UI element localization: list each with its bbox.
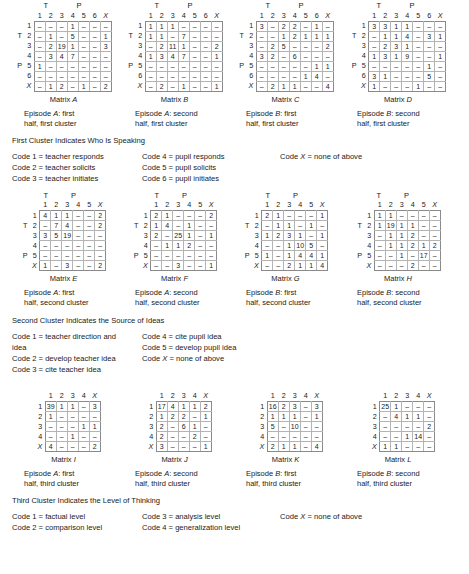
matrix-caption-line2: half, first cluster [24,119,119,129]
row-group-label [243,241,252,251]
matrix-cell: – [78,51,89,61]
row-header-x: X [141,261,151,271]
row-header-4: 4 [257,432,267,442]
matrix-grid-h: 12345X111––––T211911––3–112––4–11212P5––… [355,201,441,272]
matrix-cell: – [67,412,78,422]
matrix-grid-a: 123456X1–––1–––T2–1–5––13–2191––34–347––… [15,11,112,92]
matrix-cell: – [73,241,84,251]
row-header-4: 4 [364,241,374,251]
matrix-cell: 1 [206,261,217,271]
matrix-title: Matrix A [50,95,78,104]
matrix-cell: 1 [311,61,322,71]
matrix-cell: 1 [89,422,100,432]
matrix-cell: 19 [62,231,73,241]
column-header-2: 2 [380,11,391,21]
column-header-4: 4 [73,201,84,211]
legend-code-item: Code 4 = pupil responds [142,151,262,162]
matrix-cell: 5 [267,422,278,432]
matrix-cell: – [289,71,300,81]
matrix-cell: – [78,21,89,31]
matrix-cell: 2 [95,261,106,271]
matrix-cell: 1 [278,412,289,422]
column-header-2: 2 [391,392,402,402]
matrix-cell: 1 [34,61,45,71]
matrix-column-header-row: 1234X [361,392,435,402]
column-header-6: 6 [200,11,211,21]
row-group-label [355,231,364,241]
matrix-title: Matrix L [385,455,412,464]
corner-cell [257,392,267,402]
matrix-cell: – [84,221,95,231]
matrix-cell: 25 [380,402,391,412]
matrix-cell: – [200,31,211,41]
column-header-1: 1 [374,201,385,211]
matrix-cell: – [100,71,111,81]
matrix-caption-line2: half, second cluster [24,298,119,308]
matrix-cell: – [45,61,56,71]
matrix-row: 13911–3 [26,402,100,412]
row-header-6: 6 [24,71,34,81]
matrix-cell: – [311,51,322,61]
row-header-3: 3 [364,231,374,241]
matrix-cell: – [278,422,289,432]
row-header-1: 1 [141,211,151,221]
matrix-cell: 1 [273,211,284,221]
matrix-cell: 2 [211,41,222,51]
legend-column: Code 1 = teacher direction and ideaCode … [12,331,124,375]
matrix-cell: – [184,251,195,261]
row-header-2: 2 [359,31,369,41]
matrix-row: 41347––1 [126,51,222,61]
matrix-cell: – [418,231,429,241]
matrix-block-c: TP123456X13–22–1–T2––121113–25–––2432–6–… [230,0,341,129]
row-header-4: 4 [30,241,40,251]
row-group-label [361,432,370,442]
row-header-4: 4 [141,241,151,251]
matrix-title: Matrix J [161,455,187,464]
matrix-cell: 1 [369,81,380,91]
matrix-cell: 3 [424,31,435,41]
column-group-pupil: P [299,0,304,11]
matrix-cell: 1 [156,31,167,41]
matrix-row: X3–––1 [137,442,211,452]
matrix-cell: 1 [391,402,402,412]
row-group-label: T [350,31,359,41]
matrix-cell: – [402,61,413,71]
matrix-row: P5––––––– [126,61,222,71]
matrix-cell: 1 [211,81,222,91]
matrix-cell: – [195,261,206,271]
matrix-row: 4––1–– [26,432,100,442]
matrix-cell: – [391,61,402,71]
corner-cell [364,201,374,211]
matrix-cell: 1 [184,231,195,241]
matrix-caption-line2: half, third cluster [246,479,341,489]
matrix-cell: 1 [391,31,402,41]
matrix-cell: – [89,31,100,41]
column-header-3: 3 [278,11,289,21]
corner-cell [246,11,256,21]
matrix-cell: 2 [184,241,195,251]
column-header-3: 3 [178,392,189,402]
legend-code-item: Code 4 = generalization level [142,522,262,533]
matrix-cell: – [424,41,435,51]
matrix-row: 6––––––– [126,71,222,81]
matrix-cell: 2 [289,21,300,31]
matrix-row: P5––1–17– [355,251,440,261]
matrix-cell: 1 [306,261,317,271]
matrix-cell: 17 [156,402,167,412]
matrix-row: 3–2191––3 [15,41,111,51]
row-group-label [126,81,135,91]
matrix-caption: Episode B: secondhalf, first cluster [341,109,455,129]
matrix-cell: – [424,81,435,91]
matrix-cell: 2 [267,41,278,51]
column-header-4: 4 [413,392,424,402]
column-group-headers: TP [8,190,119,201]
legend-code-columns: Code 1 = factual levelCode 2 = compariso… [12,511,469,533]
row-group-label [132,261,141,271]
matrix-row: 13311––– [350,21,446,31]
matrix-cell: – [413,71,424,81]
matrix-cell: 1 [385,241,396,251]
matrix-row: P5–––––– [132,251,217,261]
matrix-cell: – [73,231,84,241]
row-header-x: X [35,442,45,452]
matrix-cell: – [67,442,78,452]
